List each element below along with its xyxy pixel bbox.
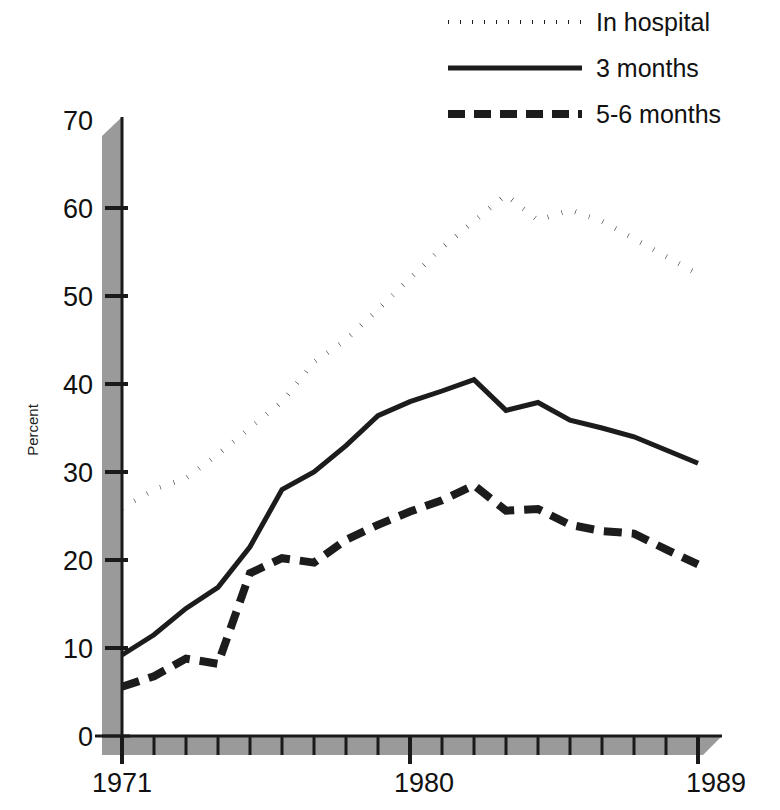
legend-entry-in-hospital: In hospital — [448, 8, 710, 36]
x-tick-label-1971: 1971 — [92, 768, 152, 798]
y-tick-label-0: 0 — [78, 722, 93, 752]
y-tick-label-70: 70 — [63, 106, 93, 136]
y-tick-label-30: 30 — [63, 458, 93, 488]
chart-figure: In hospital 3 months 5-6 months — [0, 0, 780, 810]
series-line-5-6-months — [122, 485, 698, 687]
legend-label-in-hospital: In hospital — [596, 8, 710, 36]
series-line-3-months — [122, 380, 698, 655]
y-axis-title: Percent — [24, 403, 41, 456]
y-axis-tick-labels: 70 60 50 40 30 20 10 0 — [63, 106, 93, 752]
y-tick-label-60: 60 — [63, 194, 93, 224]
legend-entry-5-6-months: 5-6 months — [448, 100, 721, 128]
x-axis-tick-labels: 1971 1980 1989 — [92, 768, 746, 798]
y-tick-label-20: 20 — [63, 546, 93, 576]
y-tick-label-50: 50 — [63, 282, 93, 312]
x-tick-label-1989: 1989 — [686, 768, 746, 798]
legend-label-3-months: 3 months — [596, 54, 699, 82]
legend-label-5-6-months: 5-6 months — [596, 100, 721, 128]
data-series-group — [122, 195, 698, 687]
legend: In hospital 3 months 5-6 months — [448, 8, 721, 128]
x-tick-label-1980: 1980 — [394, 768, 454, 798]
legend-entry-3-months: 3 months — [448, 54, 699, 82]
y-tick-label-10: 10 — [63, 634, 93, 664]
chart-canvas: In hospital 3 months 5-6 months — [0, 0, 780, 810]
series-line-in-hospital — [122, 195, 698, 508]
y-tick-label-40: 40 — [63, 370, 93, 400]
